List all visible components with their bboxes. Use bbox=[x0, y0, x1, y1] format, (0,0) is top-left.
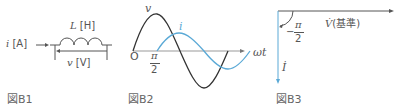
current-symbol: i bbox=[6, 38, 9, 49]
voltage-symbol: v bbox=[67, 57, 73, 68]
current-phasor-label: İ bbox=[282, 61, 286, 74]
origin-label: O bbox=[130, 50, 139, 63]
x-axis-label: ωt bbox=[253, 46, 266, 59]
caption-b2: 図B2 bbox=[128, 90, 154, 106]
voltage-phasor-label: V̇(基準) bbox=[325, 15, 360, 30]
arrowhead-icon bbox=[389, 9, 394, 13]
caption-b3: 図B3 bbox=[276, 90, 302, 106]
inductor-coil-icon bbox=[60, 38, 102, 45]
current-label: i [A] bbox=[6, 38, 27, 49]
voltage-label: v [V] bbox=[67, 57, 91, 68]
arrowhead-icon bbox=[45, 43, 49, 47]
arrowhead-icon bbox=[279, 24, 283, 28]
inductance-unit: [H] bbox=[80, 20, 95, 31]
current-curve-label: i bbox=[179, 20, 183, 33]
voltage-curve-label: v bbox=[145, 2, 151, 15]
phase-angle-arc bbox=[280, 11, 293, 26]
phase-denominator: 2 bbox=[151, 64, 157, 75]
phase-numerator: π bbox=[151, 50, 158, 61]
current-unit: [A] bbox=[12, 38, 27, 49]
inductance-label: L [H] bbox=[70, 20, 95, 31]
arrowhead-icon bbox=[276, 79, 280, 84]
caption-b1: 図B1 bbox=[7, 90, 33, 106]
axis-arrowhead-icon bbox=[240, 49, 245, 53]
voltage-unit: [V] bbox=[76, 57, 91, 68]
angle-denominator: 2 bbox=[295, 33, 301, 44]
reference-note: (基準) bbox=[332, 18, 360, 29]
angle-numerator: π bbox=[295, 19, 302, 30]
arrowhead-icon bbox=[56, 49, 60, 53]
inductance-symbol: L bbox=[70, 20, 77, 31]
